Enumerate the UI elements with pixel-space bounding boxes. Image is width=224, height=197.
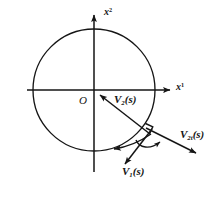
vector-v1-label-argument: (s): [133, 165, 145, 177]
diagram-canvas: [0, 0, 224, 197]
vector-v2-label: V2(s): [114, 94, 136, 107]
vector-v2-label-argument: (s): [125, 93, 137, 105]
y-axis-label-superscript: 2: [109, 6, 112, 13]
x-axis-label: x1: [176, 82, 184, 92]
y-axis-label: x2: [104, 7, 112, 17]
vector-v2t-label: V2t(s): [180, 129, 204, 142]
origin-label: O: [79, 95, 87, 106]
vector-diagram-figure: x2 x1 O V2(s) V2t(s) V1(s): [0, 0, 224, 197]
vector-v2t-label-argument: (s): [193, 128, 205, 140]
x-axis-label-superscript: 1: [181, 81, 184, 88]
vector-v1-label: V1(s): [122, 166, 144, 179]
